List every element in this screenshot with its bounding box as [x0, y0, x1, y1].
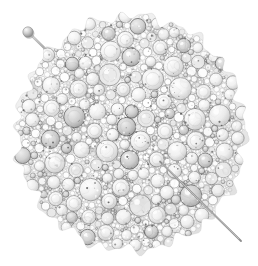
speckle [188, 114, 190, 116]
speckle [147, 69, 148, 70]
speckle [219, 66, 221, 68]
granule-small [108, 105, 110, 107]
speckle [85, 54, 87, 56]
speckle [196, 80, 197, 81]
granule-small [105, 62, 107, 64]
granule-small [185, 134, 187, 136]
granule-small [64, 51, 66, 53]
granule-large [149, 206, 167, 224]
granule-small [138, 179, 142, 183]
speckle [99, 102, 101, 104]
speckle [102, 112, 103, 113]
granule-small [227, 105, 229, 107]
granule-small [85, 73, 88, 76]
granule [188, 94, 196, 102]
granule [198, 68, 208, 78]
speckle [66, 157, 68, 159]
granule-small [104, 131, 107, 134]
granule-small [67, 81, 70, 84]
granule-small [183, 63, 185, 65]
speckle [85, 138, 86, 139]
granule-small [178, 163, 180, 165]
speckle [92, 212, 94, 214]
granule-large [157, 139, 169, 151]
speckle [109, 133, 111, 135]
granule-small [93, 139, 95, 141]
granule-small [78, 217, 80, 219]
speckle [186, 38, 188, 40]
speckle [184, 69, 185, 70]
speckle [68, 97, 69, 98]
speckle [113, 70, 114, 71]
granule-small [158, 91, 161, 94]
granule-small [95, 138, 99, 142]
speckle [145, 116, 146, 117]
granule-highlight [218, 60, 221, 63]
speckle [220, 165, 221, 166]
granule-small [72, 46, 74, 48]
speckle [116, 91, 117, 92]
granule-large [82, 210, 96, 224]
speckle [211, 99, 212, 100]
granule-small [126, 225, 128, 227]
speckle [52, 77, 53, 78]
granule-small [64, 84, 67, 87]
granule-small [134, 34, 138, 38]
speckle [34, 162, 36, 164]
speckle [82, 95, 84, 97]
granule-small [188, 62, 191, 65]
speckle [108, 185, 109, 186]
granule-small [208, 152, 210, 154]
speckle [105, 115, 107, 117]
granule-highlight [148, 128, 150, 130]
granule-small [152, 54, 154, 56]
speckle [208, 179, 210, 181]
speckle [212, 178, 214, 180]
speckle [82, 212, 83, 213]
speckle [49, 151, 50, 152]
granule-small [64, 166, 67, 169]
speckle [96, 47, 98, 49]
granule-small [108, 125, 112, 129]
speckle [147, 142, 149, 144]
granule-small [205, 112, 207, 114]
speckle [181, 92, 183, 94]
speckle [134, 192, 136, 194]
speckle [55, 77, 57, 79]
speckle [42, 119, 43, 120]
granule-highlight [172, 181, 174, 183]
granule-large [56, 204, 67, 215]
speckle [174, 142, 175, 143]
speckle [114, 243, 116, 245]
granule-small [35, 178, 37, 180]
speckle [125, 147, 127, 149]
speckle [165, 155, 167, 157]
speckle [114, 129, 116, 131]
speckle [151, 35, 153, 37]
speckle [142, 210, 144, 212]
granule-highlight [188, 155, 191, 158]
speckle [178, 96, 179, 97]
speckle [219, 132, 220, 133]
speckle [154, 66, 156, 68]
granule-small [140, 61, 143, 64]
speckle [148, 132, 150, 134]
speckle [116, 61, 117, 62]
granule-small [78, 101, 80, 103]
speckle [202, 133, 203, 134]
granule-small [138, 64, 141, 67]
granule [146, 126, 154, 134]
speckle [123, 88, 125, 90]
granule-small [96, 71, 98, 73]
speckle [83, 97, 85, 99]
speckle [145, 54, 146, 55]
granule-small [149, 221, 152, 224]
granule-small [221, 94, 223, 96]
speckle [165, 216, 167, 218]
granule-small [118, 148, 122, 152]
speckle [108, 211, 110, 213]
granule-small [46, 68, 49, 71]
speckle [167, 234, 168, 235]
speckle [68, 129, 69, 130]
granule [188, 49, 194, 55]
